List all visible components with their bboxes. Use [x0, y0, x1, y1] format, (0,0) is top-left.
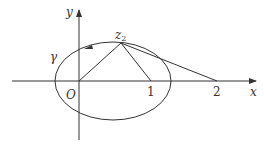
- diagram-canvas: [0, 0, 264, 147]
- curve-label-gamma: γ: [50, 51, 57, 63]
- tick-label-2: 2: [213, 86, 221, 98]
- y-axis-label: y: [66, 6, 73, 18]
- x-axis-label: x: [250, 86, 257, 98]
- tick-label-1: 1: [147, 86, 155, 98]
- complex-plane-diagram: y x O γ z2 1 2: [0, 0, 264, 147]
- point-label-z2: z2: [115, 29, 126, 43]
- point-label-z2-subscript: 2: [121, 34, 126, 43]
- origin-label: O: [66, 89, 76, 101]
